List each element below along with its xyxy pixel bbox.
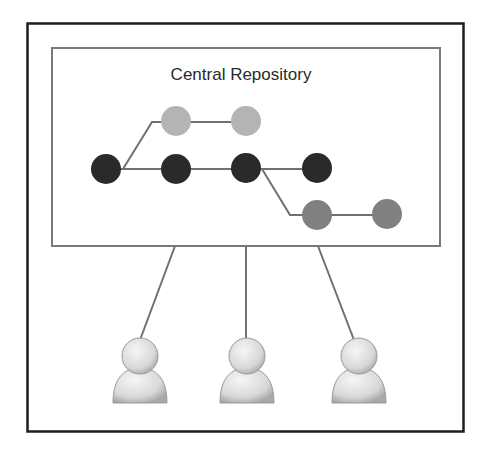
commit-node [161, 154, 191, 184]
commit-node [302, 153, 332, 183]
commit-node [372, 199, 402, 229]
commit-node [91, 154, 121, 184]
commit-node [161, 106, 191, 136]
commit-node [231, 106, 261, 136]
central-repository-title: Central Repository [171, 65, 312, 84]
commit-node [302, 200, 332, 230]
diagram-canvas: Central Repository [0, 0, 484, 450]
commit-node [231, 153, 261, 183]
